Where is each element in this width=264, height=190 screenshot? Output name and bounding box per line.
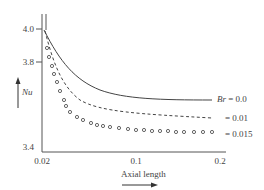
y-tick-label-3.4: 3.4: [23, 142, 35, 152]
legend-br-0.0: Br = 0.0: [217, 94, 247, 104]
x-axis-arrow-icon: [122, 183, 158, 188]
x-tick-label-0.2: 0.2: [214, 156, 225, 166]
legend-br-0.015: = 0.015: [225, 129, 253, 139]
x-axis-label: Axial length: [121, 169, 166, 179]
series-br-0.015-markers: [45, 46, 213, 133]
y-axis-label: Nu: [21, 87, 33, 97]
y-tick-label-4.0: 4.0: [23, 24, 35, 34]
legend-br-0.0-value: = 0.0: [226, 94, 247, 104]
x-tick-label-0.1: 0.1: [130, 156, 141, 166]
series-br-0.0-line: [44, 30, 212, 100]
y-axis-arrow-icon: [16, 77, 21, 108]
nusselt-chart: 4.0 3.8 3.4 0.02 0.1 0.2 Nu Axial length: [0, 0, 264, 190]
legend-br-0.01: = 0.01: [225, 113, 248, 123]
y-tick-label-3.8: 3.8: [23, 57, 35, 67]
x-tick-label-0.02: 0.02: [34, 156, 50, 166]
series-br-0.01-line: [45, 31, 212, 118]
